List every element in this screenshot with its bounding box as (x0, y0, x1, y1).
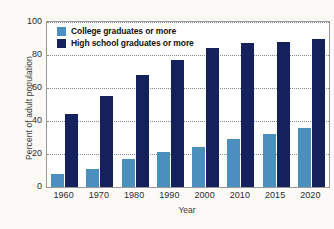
legend-label-1: High school graduates or more (71, 38, 194, 48)
bar-1980-college (122, 159, 135, 187)
legend-item-1: High school graduates or more (57, 38, 194, 48)
x-tick-label-2000: 2000 (187, 190, 222, 200)
x-axis-title: Year (46, 205, 328, 215)
y-tick-label-80: 80 (16, 50, 42, 59)
bar-1980-highschool (136, 75, 149, 187)
x-tick-label-2020: 2020 (293, 190, 328, 200)
chart-figure: Percent of adult population 100 80 60 40… (0, 0, 334, 229)
y-tick-label-100: 100 (16, 17, 42, 26)
bar-2000-college (192, 147, 205, 187)
bar-1960-highschool (65, 114, 78, 187)
bar-1990-highschool (171, 60, 184, 187)
bar-2015-college (263, 134, 276, 187)
x-axis-tick-labels: 19601970198019902000201020152020 (46, 190, 328, 200)
bar-1960-college (51, 174, 64, 187)
x-tick-label-1980: 1980 (117, 190, 152, 200)
y-tick-label-40: 40 (16, 116, 42, 125)
y-axis-tick-labels: 100 80 60 40 20 0 (14, 0, 42, 229)
bar-2000-highschool (206, 48, 219, 187)
plot-area: College graduates or moreHigh school gra… (46, 21, 330, 188)
bar-2020-highschool (312, 39, 325, 188)
x-tick-label-1970: 1970 (81, 190, 116, 200)
legend-swatch-icon-0 (57, 27, 66, 36)
chart-legend: College graduates or moreHigh school gra… (57, 26, 194, 48)
x-tick-label-2010: 2010 (222, 190, 257, 200)
bar-2020-college (298, 128, 311, 187)
bar-1970-college (86, 169, 99, 187)
bar-group-2020 (294, 22, 329, 187)
bar-group-2010 (223, 22, 258, 187)
legend-label-0: College graduates or more (71, 26, 176, 36)
legend-swatch-icon-1 (57, 39, 66, 48)
y-tick-label-60: 60 (16, 83, 42, 92)
bar-1970-highschool (100, 96, 113, 187)
x-tick-label-2015: 2015 (258, 190, 293, 200)
bar-group-2015 (259, 22, 294, 187)
bar-2010-college (227, 139, 240, 187)
x-tick-label-1990: 1990 (152, 190, 187, 200)
bar-1990-college (157, 152, 170, 187)
bar-2015-highschool (277, 42, 290, 187)
legend-item-0: College graduates or more (57, 26, 194, 36)
bar-2010-highschool (241, 43, 254, 187)
y-tick-label-20: 20 (16, 149, 42, 158)
y-tick-label-0: 0 (16, 182, 42, 191)
x-tick-label-1960: 1960 (46, 190, 81, 200)
